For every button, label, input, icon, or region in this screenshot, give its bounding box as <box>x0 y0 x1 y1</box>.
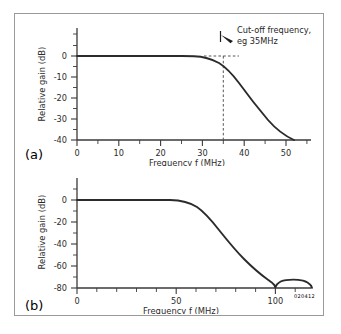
chart-a-ytick-4: -40 <box>54 135 67 145</box>
chart-b-xtick-2: 100 <box>268 296 284 306</box>
chart-b-ytick-4: -80 <box>54 283 67 293</box>
chart-a-annotation-arrow-icon <box>221 35 233 43</box>
chart-b-ytick-1: -20 <box>54 217 67 227</box>
chart-b-x-ticks <box>77 288 295 294</box>
figure-reference-code: 020412 <box>294 293 315 299</box>
chart-a-xtick-5: 50 <box>281 148 291 158</box>
chart-a-xtick-2: 20 <box>155 148 165 158</box>
chart-a-xtick-3: 30 <box>197 148 207 158</box>
chart-b-ytick-3: -60 <box>54 261 67 271</box>
chart-a-xtick-1: 10 <box>114 148 124 158</box>
chart-a-curve <box>77 56 294 140</box>
figure-container: 0 -10 -20 -30 -40 0 10 20 30 40 50 Relat… <box>0 0 341 334</box>
panel-b-label: (b) <box>25 298 43 313</box>
chart-a-x-axis-label: Frequency f (MHz) <box>149 158 225 166</box>
chart-a-y-ticks <box>71 34 77 140</box>
panel-b-label-wrap: (b) <box>25 295 43 314</box>
chart-a-annotation-line1: Cut-off frequency, <box>237 25 311 35</box>
chart-panel-a: 0 -10 -20 -30 -40 0 10 20 30 40 50 Relat… <box>15 14 323 166</box>
chart-a-xtick-0: 0 <box>74 148 79 158</box>
panel-a-label-wrap: (a) <box>25 144 43 163</box>
chart-b-x-axis-label: Frequency f (MHz) <box>143 306 219 314</box>
figure-frame: 0 -10 -20 -30 -40 0 10 20 30 40 50 Relat… <box>14 13 324 316</box>
panel-a-label: (a) <box>25 147 43 162</box>
chart-a-ytick-1: -10 <box>54 72 67 82</box>
chart-a-annotation-line2: eg 35MHz <box>237 36 278 46</box>
chart-b-ytick-0: 0 <box>62 195 67 205</box>
chart-b-xtick-1: 50 <box>171 296 181 306</box>
chart-b-curve <box>77 200 312 288</box>
chart-panel-b: 0 -20 -40 -60 -80 0 50 100 Relative gain… <box>15 166 323 314</box>
chart-b-xtick-0: 0 <box>74 296 79 306</box>
chart-b-y-ticks <box>71 189 77 288</box>
chart-b-ytick-2: -40 <box>54 239 67 249</box>
figure-code-wrap: 020412 <box>294 283 315 302</box>
chart-a-ytick-3: -30 <box>54 114 67 124</box>
chart-a-x-ticks <box>77 140 307 146</box>
chart-a-y-axis-label: Relative gain (dB) <box>37 47 47 122</box>
chart-b-y-axis-label: Relative gain (dB) <box>37 195 47 270</box>
chart-a-xtick-4: 40 <box>239 148 249 158</box>
chart-a-ytick-0: 0 <box>62 51 67 61</box>
chart-a-ytick-2: -20 <box>54 93 67 103</box>
